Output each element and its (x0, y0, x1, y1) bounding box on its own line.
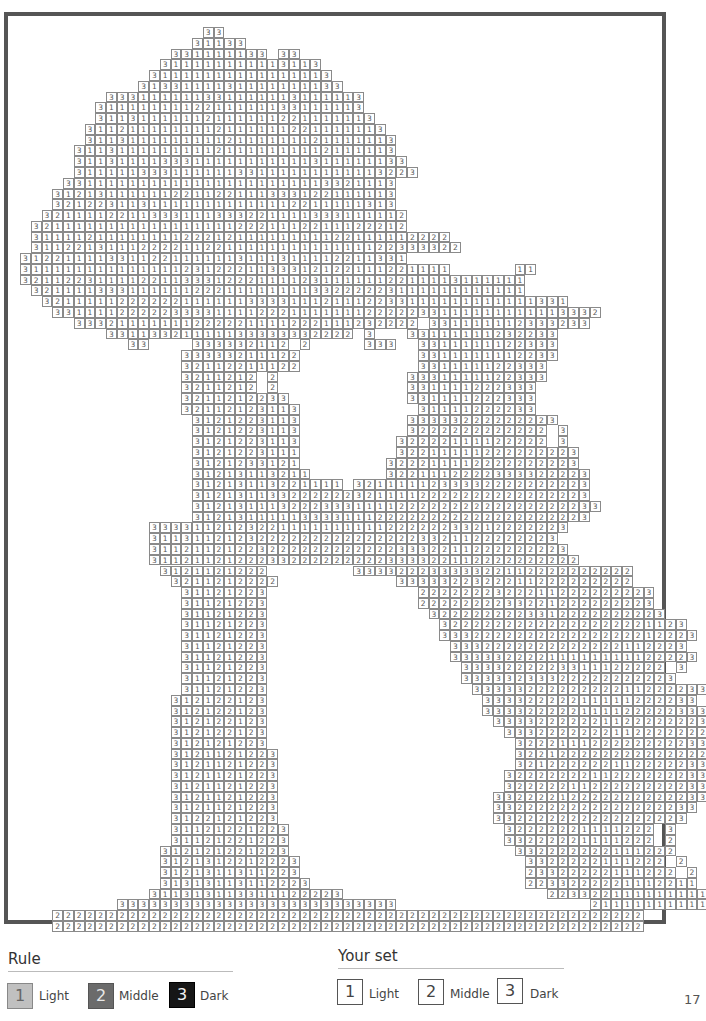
grid-cell[interactable]: 2 (622, 792, 633, 803)
grid-cell[interactable]: 2 (246, 566, 257, 577)
grid-cell[interactable]: 1 (654, 619, 665, 630)
grid-cell[interactable]: 1 (278, 210, 289, 221)
grid-cell[interactable]: 1 (332, 275, 343, 286)
grid-cell[interactable]: 2 (665, 619, 676, 630)
grid-cell[interactable]: 1 (224, 867, 235, 878)
grid-cell[interactable]: 2 (214, 544, 225, 555)
grid-cell[interactable]: 2 (568, 587, 579, 598)
grid-cell[interactable]: 2 (493, 576, 504, 587)
grid-cell[interactable]: 3 (257, 662, 268, 673)
grid-cell[interactable]: 1 (160, 102, 171, 113)
grid-cell[interactable]: 2 (246, 792, 257, 803)
grid-cell[interactable]: 3 (418, 415, 429, 426)
grid-cell[interactable]: 3 (278, 824, 289, 835)
grid-cell[interactable]: 1 (289, 275, 300, 286)
grid-cell[interactable]: 1 (300, 264, 311, 275)
grid-cell[interactable]: 3 (31, 221, 42, 232)
grid-cell[interactable]: 3 (31, 232, 42, 243)
grid-cell[interactable]: 3 (353, 92, 364, 103)
grid-cell[interactable]: 3 (439, 318, 450, 329)
grid-cell[interactable]: 3 (547, 415, 558, 426)
grid-cell[interactable]: 2 (515, 781, 526, 792)
grid-cell[interactable]: 2 (558, 469, 569, 480)
grid-cell[interactable]: 2 (558, 641, 569, 652)
grid-cell[interactable]: 1 (192, 221, 203, 232)
grid-cell[interactable]: 2 (536, 619, 547, 630)
grid-cell[interactable]: 2 (472, 609, 483, 620)
grid-cell[interactable]: 2 (515, 415, 526, 426)
grid-cell[interactable]: 2 (590, 673, 601, 684)
grid-cell[interactable]: 1 (461, 382, 472, 393)
grid-cell[interactable]: 3 (214, 350, 225, 361)
grid-cell[interactable]: 3 (687, 652, 698, 663)
grid-cell[interactable]: 3 (697, 706, 706, 717)
grid-cell[interactable]: 3 (278, 846, 289, 857)
grid-cell[interactable]: 2 (310, 318, 321, 329)
grid-cell[interactable]: 2 (192, 802, 203, 813)
grid-cell[interactable]: 2 (429, 921, 440, 932)
grid-cell[interactable]: 3 (181, 307, 192, 318)
grid-cell[interactable]: 2 (246, 662, 257, 673)
grid-cell[interactable]: 2 (525, 630, 536, 641)
grid-cell[interactable]: 2 (654, 792, 665, 803)
grid-cell[interactable]: 1 (289, 253, 300, 264)
grid-cell[interactable]: 1 (95, 178, 106, 189)
grid-cell[interactable]: 2 (579, 770, 590, 781)
grid-cell[interactable]: 3 (418, 361, 429, 372)
grid-cell[interactable]: 1 (128, 189, 139, 200)
grid-cell[interactable]: 2 (493, 436, 504, 447)
grid-cell[interactable]: 1 (235, 145, 246, 156)
grid-cell[interactable]: 1 (375, 490, 386, 501)
grid-cell[interactable]: 2 (353, 533, 364, 544)
grid-cell[interactable]: 1 (117, 156, 128, 167)
grid-cell[interactable]: 2 (214, 501, 225, 512)
grid-cell[interactable]: 3 (278, 835, 289, 846)
grid-cell[interactable]: 1 (375, 178, 386, 189)
grid-cell[interactable]: 1 (310, 522, 321, 533)
grid-cell[interactable]: 2 (493, 566, 504, 577)
grid-cell[interactable]: 2 (676, 727, 687, 738)
grid-cell[interactable]: 1 (525, 296, 536, 307)
grid-cell[interactable]: 1 (267, 232, 278, 243)
grid-cell[interactable]: 2 (95, 910, 106, 921)
grid-cell[interactable]: 2 (601, 749, 612, 760)
grid-cell[interactable]: 1 (439, 458, 450, 469)
grid-cell[interactable]: 3 (343, 501, 354, 512)
grid-cell[interactable]: 3 (257, 706, 268, 717)
grid-cell[interactable]: 2 (396, 264, 407, 275)
grid-cell[interactable]: 2 (504, 641, 515, 652)
grid-cell[interactable]: 1 (246, 285, 257, 296)
grid-cell[interactable]: 1 (138, 156, 149, 167)
grid-cell[interactable]: 1 (203, 81, 214, 92)
grid-cell[interactable]: 2 (504, 512, 515, 523)
grid-cell[interactable]: 3 (171, 813, 182, 824)
grid-cell[interactable]: 3 (192, 436, 203, 447)
grid-cell[interactable]: 2 (633, 587, 644, 598)
grid-cell[interactable]: 2 (278, 921, 289, 932)
grid-cell[interactable]: 2 (300, 339, 311, 350)
grid-cell[interactable]: 2 (214, 242, 225, 253)
grid-cell[interactable]: 2 (235, 846, 246, 857)
grid-cell[interactable]: 2 (515, 770, 526, 781)
grid-cell[interactable]: 1 (181, 318, 192, 329)
grid-cell[interactable]: 3 (192, 38, 203, 49)
grid-cell[interactable]: 2 (375, 512, 386, 523)
grid-cell[interactable]: 1 (192, 242, 203, 253)
grid-cell[interactable]: 1 (439, 275, 450, 286)
grid-cell[interactable]: 2 (396, 501, 407, 512)
grid-cell[interactable]: 2 (267, 910, 278, 921)
grid-cell[interactable]: 1 (310, 307, 321, 318)
grid-cell[interactable]: 2 (633, 921, 644, 932)
grid-cell[interactable]: 1 (300, 81, 311, 92)
grid-cell[interactable]: 1 (203, 38, 214, 49)
grid-cell[interactable]: 1 (192, 889, 203, 900)
grid-cell[interactable]: 2 (536, 479, 547, 490)
grid-cell[interactable]: 1 (332, 92, 343, 103)
grid-cell[interactable]: 1 (300, 167, 311, 178)
grid-cell[interactable]: 2 (644, 802, 655, 813)
grid-cell[interactable]: 2 (525, 770, 536, 781)
grid-cell[interactable]: 2 (579, 792, 590, 803)
grid-cell[interactable]: 3 (257, 329, 268, 340)
grid-cell[interactable]: 1 (558, 738, 569, 749)
grid-cell[interactable]: 3 (687, 759, 698, 770)
